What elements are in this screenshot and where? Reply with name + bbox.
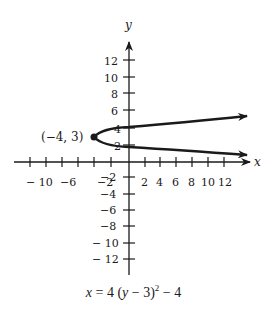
- x-tick-label: 12: [218, 176, 232, 189]
- vertex-point: [91, 134, 98, 141]
- caption-eq: = 4 (: [92, 285, 122, 300]
- parabola-graph: x − 10 −6 −2 2 4 6 8 10 12: [0, 0, 267, 319]
- y-tick-label: −2: [100, 171, 116, 184]
- caption-mid: − 3): [128, 285, 155, 300]
- y-tick-label: −4: [100, 188, 116, 201]
- x-tick-label: − 10: [26, 176, 53, 189]
- y-tick-label: 8: [111, 88, 118, 101]
- y-axis-label: y: [124, 18, 132, 32]
- caption-tail: − 4: [159, 285, 181, 300]
- y-tick-label: − 12: [92, 253, 119, 266]
- y-tick-label: 4: [114, 123, 121, 136]
- equation-caption: x = 4 (y − 3)2 − 4: [0, 283, 267, 301]
- y-tick-label: −8: [100, 220, 116, 233]
- x-tick-label: 2: [141, 176, 148, 189]
- y-tick-label: 6: [111, 105, 118, 118]
- y-tick-label: 10: [104, 72, 118, 85]
- x-axis: x − 10 −6 −2 2 4 6 8 10 12: [14, 155, 261, 189]
- x-tick-label: 8: [188, 176, 195, 189]
- x-tick-label: 10: [201, 176, 215, 189]
- x-tick-label: 4: [156, 176, 163, 189]
- x-tick-label: 6: [172, 176, 179, 189]
- y-tick-label: 12: [104, 55, 118, 68]
- y-tick-label: − 10: [92, 237, 119, 250]
- vertex-label: (−4, 3): [41, 130, 83, 144]
- x-tick-label: −6: [60, 176, 76, 189]
- x-axis-label: x: [254, 155, 261, 169]
- y-tick-label: −6: [100, 204, 116, 217]
